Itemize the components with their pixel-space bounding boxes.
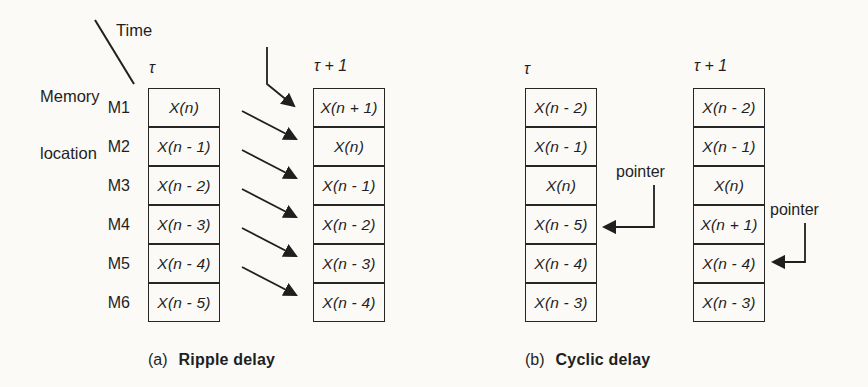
- memory-column-b-tau-plus-1: X(n - 2) X(n - 1) X(n) X(n + 1) X(n - 4)…: [693, 88, 765, 322]
- memory-cell: X(n - 5): [525, 205, 597, 244]
- memory-cell: X(n + 1): [313, 88, 385, 127]
- caption-b-index: (b): [525, 351, 545, 369]
- memory-cell: X(n): [148, 88, 220, 127]
- caption-b-title: Cyclic delay: [556, 351, 651, 369]
- row-label-m2: M2: [96, 137, 130, 157]
- memory-cell: X(n - 1): [693, 127, 765, 166]
- memory-column-a-tau: X(n) X(n - 1) X(n - 2) X(n - 3) X(n - 4)…: [148, 88, 220, 322]
- pointer-label-tau-plus-1: pointer: [770, 201, 819, 219]
- memory-cell: X(n - 2): [693, 88, 765, 127]
- time-axis-label: Time: [116, 21, 152, 40]
- memory-axis-label-line1: Memory: [40, 87, 100, 106]
- col-header-b-tau-plus-1: τ + 1: [694, 57, 727, 75]
- memory-cell: X(n - 3): [693, 283, 765, 322]
- memory-cell: X(n + 1): [693, 205, 765, 244]
- memory-cell: X(n): [313, 127, 385, 166]
- memory-cell: X(n): [693, 166, 765, 205]
- ripple-arrow-2: [242, 150, 296, 178]
- memory-cell: X(n - 2): [525, 88, 597, 127]
- ripple-arrow-5: [242, 267, 296, 295]
- memory-cell: X(n - 4): [525, 244, 597, 283]
- memory-cell: X(n - 4): [693, 244, 765, 283]
- row-label-m1: M1: [96, 98, 130, 118]
- memory-cell: X(n - 1): [525, 127, 597, 166]
- memory-cell: X(n - 4): [148, 244, 220, 283]
- row-label-m6: M6: [96, 293, 130, 313]
- pointer-label-tau: pointer: [616, 163, 665, 181]
- memory-cell: X(n - 1): [313, 166, 385, 205]
- pointer-arrow-tau: [604, 185, 654, 227]
- row-label-m4: M4: [96, 215, 130, 235]
- memory-cell: X(n - 3): [525, 283, 597, 322]
- row-label-m5: M5: [96, 254, 130, 274]
- figure-canvas: Time Memory location τ τ + 1 M1 M2 M3 M4…: [0, 0, 868, 387]
- memory-cell: X(n - 3): [313, 244, 385, 283]
- ripple-arrow-4: [242, 228, 296, 256]
- memory-axis-label-line2: location: [40, 144, 100, 163]
- caption-b: (b) Cyclic delay: [525, 351, 650, 369]
- caption-a: (a) Ripple delay: [148, 351, 275, 369]
- pointer-arrow-tau-plus-1: [773, 223, 805, 262]
- col-header-a-tau-plus-1: τ + 1: [314, 57, 347, 75]
- memory-cell: X(n - 4): [313, 283, 385, 322]
- row-label-m3: M3: [96, 176, 130, 196]
- memory-cell: X(n): [525, 166, 597, 205]
- memory-cell: X(n - 5): [148, 283, 220, 322]
- ripple-arrow-1: [242, 111, 296, 139]
- input-sample-arrow: [267, 47, 294, 106]
- caption-a-title: Ripple delay: [179, 351, 276, 369]
- col-header-b-tau: τ: [524, 60, 530, 78]
- memory-cell: X(n - 1): [148, 127, 220, 166]
- memory-cell: X(n - 2): [148, 166, 220, 205]
- memory-cell: X(n - 3): [148, 205, 220, 244]
- memory-cell: X(n - 2): [313, 205, 385, 244]
- memory-column-b-tau: X(n - 2) X(n - 1) X(n) X(n - 5) X(n - 4)…: [525, 88, 597, 322]
- memory-column-a-tau-plus-1: X(n + 1) X(n) X(n - 1) X(n - 2) X(n - 3)…: [313, 88, 385, 322]
- col-header-a-tau: τ: [149, 59, 155, 77]
- ripple-arrow-3: [242, 189, 296, 217]
- caption-a-index: (a): [148, 351, 168, 369]
- memory-axis-label: Memory location: [40, 49, 100, 201]
